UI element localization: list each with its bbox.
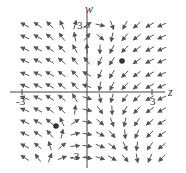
field-arrow bbox=[110, 57, 115, 64]
field-arrow bbox=[34, 22, 41, 27]
field-arrow bbox=[34, 47, 42, 51]
field-arrow bbox=[34, 132, 41, 137]
field-arrow bbox=[47, 22, 53, 28]
field-arrow bbox=[158, 84, 166, 88]
field-arrow bbox=[122, 46, 128, 52]
field-arrow bbox=[98, 57, 102, 65]
field-arrow bbox=[59, 95, 66, 101]
field-arrow bbox=[108, 156, 116, 160]
field-arrow bbox=[34, 72, 42, 76]
field-arrow bbox=[21, 144, 29, 148]
w-tick-label-pos: 3 bbox=[77, 20, 83, 31]
field-arrow bbox=[48, 154, 51, 162]
field-arrow bbox=[146, 107, 153, 112]
field-arrow bbox=[21, 108, 29, 111]
field-arrow bbox=[59, 143, 66, 149]
field-arrow bbox=[21, 156, 29, 161]
field-arrow bbox=[21, 23, 29, 27]
field-arrow bbox=[147, 131, 153, 137]
field-arrow bbox=[110, 118, 113, 126]
field-arrow bbox=[124, 118, 126, 127]
field-arrow bbox=[110, 45, 114, 53]
field-arrow bbox=[46, 72, 54, 77]
field-arrow bbox=[72, 58, 78, 65]
field-arrow bbox=[108, 143, 115, 149]
field-arrow bbox=[34, 108, 42, 112]
field-arrow bbox=[134, 22, 141, 28]
field-arrow bbox=[61, 130, 63, 139]
field-arrow bbox=[96, 24, 105, 26]
field-arrow bbox=[123, 142, 127, 150]
field-arrow bbox=[71, 146, 80, 147]
field-arrow bbox=[46, 84, 54, 89]
field-arrow bbox=[122, 155, 128, 162]
field-arrow bbox=[34, 59, 42, 63]
field-arrow bbox=[96, 144, 104, 147]
field-arrow bbox=[34, 84, 42, 88]
field-arrow bbox=[35, 154, 40, 161]
field-arrow bbox=[134, 95, 141, 101]
field-arrow bbox=[35, 143, 42, 149]
field-arrow bbox=[60, 21, 64, 29]
field-arrow bbox=[59, 58, 66, 64]
field-arrow bbox=[158, 35, 166, 39]
field-arrow bbox=[148, 154, 152, 162]
field-arrow bbox=[136, 142, 137, 151]
field-arrow bbox=[74, 21, 76, 30]
field-arrow bbox=[60, 118, 64, 126]
field-arrow bbox=[110, 21, 113, 29]
field-arrow bbox=[136, 154, 138, 163]
field-arrow bbox=[47, 119, 54, 125]
field-arrow bbox=[74, 33, 76, 42]
field-arrow bbox=[146, 47, 154, 51]
field-arrow bbox=[21, 72, 29, 75]
field-arrow bbox=[21, 59, 29, 63]
field-arrow bbox=[21, 47, 29, 51]
field-arrow bbox=[46, 107, 53, 112]
field-arrow bbox=[58, 71, 65, 76]
field-arrow bbox=[97, 106, 102, 113]
field-arrow bbox=[71, 133, 80, 135]
field-arrow bbox=[46, 46, 53, 51]
field-arrow bbox=[122, 34, 128, 41]
field-arrow bbox=[123, 21, 127, 29]
field-arrow bbox=[99, 94, 101, 103]
field-arrow bbox=[97, 34, 104, 40]
field-arrow bbox=[21, 84, 29, 87]
field-arrow bbox=[111, 33, 113, 42]
field-arrow bbox=[21, 132, 29, 136]
field-arrow bbox=[109, 131, 115, 138]
field-arrow bbox=[122, 83, 128, 90]
field-arrow bbox=[133, 46, 140, 51]
field-arrow bbox=[133, 71, 140, 76]
field-arrow bbox=[59, 33, 64, 40]
z-axis-label: z bbox=[168, 86, 173, 98]
field-arrow bbox=[34, 35, 42, 40]
field-arrow bbox=[158, 96, 166, 100]
field-arrow bbox=[134, 107, 140, 114]
field-arrow bbox=[34, 96, 42, 100]
field-arrow bbox=[111, 94, 113, 103]
field-arrow bbox=[96, 132, 104, 136]
field-arrow bbox=[159, 143, 166, 149]
field-arrow bbox=[122, 94, 127, 101]
field-arrow bbox=[135, 130, 139, 138]
field-arrow bbox=[47, 34, 54, 40]
field-arrow bbox=[71, 120, 79, 125]
field-arrow bbox=[58, 83, 65, 88]
field-arrow bbox=[125, 130, 126, 139]
field-arrow bbox=[158, 108, 166, 112]
field-arrow bbox=[21, 35, 29, 39]
z-tick-label-pos: 3 bbox=[150, 96, 156, 107]
w-tick-label-neg: -3 bbox=[70, 151, 79, 162]
field-arrow bbox=[21, 120, 29, 124]
field-arrow bbox=[72, 83, 78, 90]
field-arrow bbox=[47, 131, 53, 138]
field-arrow bbox=[146, 84, 154, 89]
field-arrow bbox=[96, 157, 105, 160]
z-tick-label-neg: -3 bbox=[16, 96, 25, 107]
field-arrow bbox=[73, 94, 78, 102]
field-arrow bbox=[97, 119, 104, 125]
field-arrow bbox=[58, 156, 66, 159]
field-arrow bbox=[147, 119, 154, 125]
